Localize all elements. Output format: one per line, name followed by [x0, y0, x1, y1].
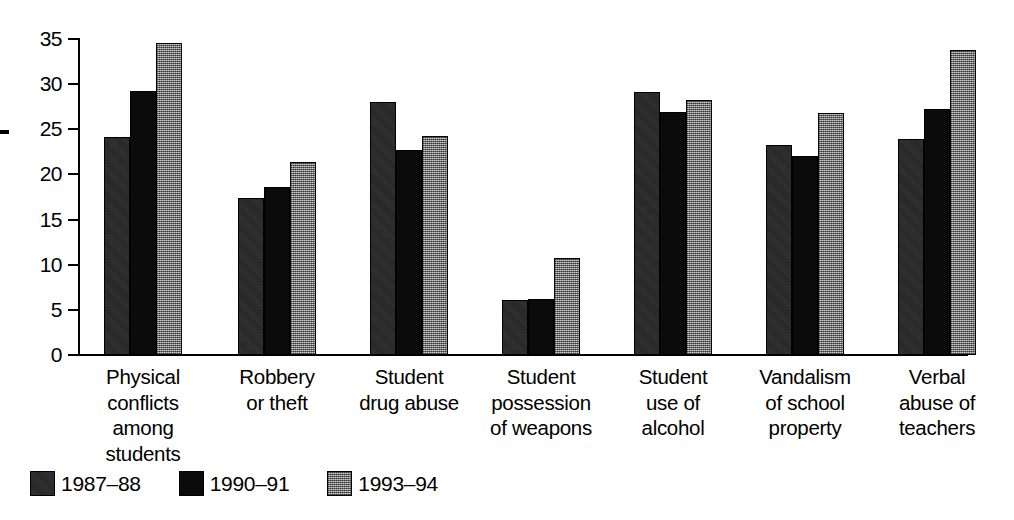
bar — [924, 109, 950, 355]
category-label-line: drug abuse — [334, 390, 484, 416]
category-label-line: use of — [598, 390, 748, 416]
bar-chart-figure: 05101520253035 Physicalconflictsamongstu… — [0, 0, 1014, 520]
legend-swatch-dark-gray — [30, 471, 55, 496]
category-label-line: teachers — [862, 415, 1012, 441]
bar — [264, 187, 290, 355]
bar — [660, 112, 686, 355]
y-axis-tick-label: 15 — [24, 209, 62, 230]
bar — [130, 91, 156, 355]
legend-label: 1993–94 — [358, 473, 438, 494]
bar — [104, 137, 130, 355]
y-axis-tick-label: 25 — [24, 118, 62, 139]
y-axis-tick-labels: 05101520253035 — [14, 0, 62, 520]
bar — [502, 300, 528, 355]
category-label-line: Verbal — [862, 364, 1012, 390]
category-label-line: property — [730, 415, 880, 441]
category-label-line: of weapons — [466, 415, 616, 441]
bar — [528, 299, 554, 355]
category-label-line: possession — [466, 390, 616, 416]
x-axis-category-label: Studentuse ofalcohol — [598, 364, 748, 441]
category-label-line: or theft — [202, 390, 352, 416]
category-label-line: alcohol — [598, 415, 748, 441]
x-axis-category-label: Robberyor theft — [202, 364, 352, 415]
bar — [290, 162, 316, 355]
bar — [950, 50, 976, 355]
bar-group — [238, 39, 316, 355]
bar — [238, 198, 264, 355]
bar — [396, 150, 422, 355]
category-label-line: Student — [334, 364, 484, 390]
category-label-line: of school — [730, 390, 880, 416]
y-axis-tick-label: 5 — [24, 299, 62, 320]
bar-group — [634, 39, 712, 355]
bar-group — [502, 39, 580, 355]
y-axis-tick-label: 10 — [24, 254, 62, 275]
bar-group — [104, 39, 182, 355]
category-label-line: conflicts — [68, 390, 218, 416]
y-axis-tick-label: 20 — [24, 163, 62, 184]
x-axis-category-label: Vandalismof schoolproperty — [730, 364, 880, 441]
legend-item[interactable]: 1993–94 — [327, 471, 438, 496]
category-label-line: Vandalism — [730, 364, 880, 390]
plot-area — [78, 39, 968, 355]
category-label-line: Physical — [68, 364, 218, 390]
bar — [422, 136, 448, 355]
x-axis-category-label: Physicalconflictsamongstudents — [68, 364, 218, 466]
axis-label-fragment-dash — [0, 130, 9, 134]
category-label-line: Robbery — [202, 364, 352, 390]
legend-label: 1990–91 — [210, 473, 290, 494]
bar — [370, 102, 396, 355]
category-label-line: Student — [598, 364, 748, 390]
bar — [634, 92, 660, 355]
y-axis-tick-label: 30 — [24, 73, 62, 94]
legend-item[interactable]: 1987–88 — [30, 471, 141, 496]
category-label-line: abuse of — [862, 390, 1012, 416]
legend-label: 1987–88 — [61, 473, 141, 494]
legend-swatch-light-gray — [327, 471, 352, 496]
category-label-line: students — [68, 441, 218, 467]
bar — [554, 258, 580, 356]
bar-group — [766, 39, 844, 355]
category-label-line: among — [68, 415, 218, 441]
bar — [156, 43, 182, 355]
bar-group — [370, 39, 448, 355]
y-axis-tick-label: 0 — [24, 344, 62, 365]
bar — [792, 156, 818, 355]
legend-swatch-black — [179, 471, 204, 496]
legend-item[interactable]: 1990–91 — [179, 471, 290, 496]
bar — [818, 113, 844, 355]
y-axis-tick-label: 35 — [24, 28, 62, 49]
bar — [686, 100, 712, 356]
x-axis-category-label: Studentpossessionof weapons — [466, 364, 616, 441]
bar — [766, 145, 792, 355]
bar — [898, 139, 924, 355]
bar-group — [898, 39, 976, 355]
x-axis-category-label: Studentdrug abuse — [334, 364, 484, 415]
category-label-line: Student — [466, 364, 616, 390]
chart-legend: 1987–881990–911993–94 — [30, 471, 476, 496]
x-axis-category-label: Verbalabuse ofteachers — [862, 364, 1012, 441]
